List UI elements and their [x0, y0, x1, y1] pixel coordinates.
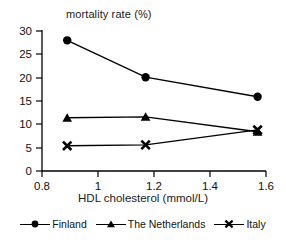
series-line — [67, 130, 257, 146]
y-tick-label-20: 20 — [19, 72, 32, 84]
series-italy — [63, 126, 262, 150]
y-tick-label-0: 0 — [26, 165, 32, 177]
legend-item-the-netherlands[interactable]: The Netherlands — [96, 218, 206, 230]
y-tick-label-30: 30 — [19, 25, 32, 37]
legend-item-italy[interactable]: Italy — [214, 218, 265, 230]
chart-legend: Finland The Netherlands Italy — [0, 218, 286, 230]
data-point[interactable] — [141, 73, 149, 81]
x-tick-label-1: 1 — [95, 180, 101, 192]
series-line — [67, 40, 257, 96]
data-point[interactable] — [253, 93, 261, 101]
chart-plot-area: 30 25 20 15 10 5 0 0.8 1 1.2 1.4 1.6 — [0, 0, 286, 243]
x-tick-label-0.8: 0.8 — [34, 180, 50, 192]
x-axis-ticks — [42, 171, 266, 177]
series-finland — [63, 36, 262, 101]
circle-marker-icon — [20, 218, 50, 230]
x-marker-icon — [214, 218, 244, 230]
x-tick-label-1.2: 1.2 — [146, 180, 162, 192]
legend-label-italy: Italy — [246, 218, 265, 230]
legend-item-finland[interactable]: Finland — [20, 218, 86, 230]
y-axis-ticks — [36, 31, 42, 171]
mortality-rate-chart: mortality rate (%) 30 25 20 15 10 5 0 — [0, 0, 286, 243]
y-tick-label-10: 10 — [19, 118, 32, 130]
triangle-marker-icon — [96, 218, 126, 230]
data-point[interactable] — [63, 36, 71, 44]
legend-label-finland: Finland — [52, 218, 86, 230]
series-the-netherlands — [62, 112, 262, 135]
x-axis-title: HDL cholesterol (mmol/L) — [0, 192, 286, 204]
data-series-layer — [62, 36, 262, 150]
y-tick-label-25: 25 — [19, 48, 32, 60]
x-tick-label-1.6: 1.6 — [258, 180, 274, 192]
y-tick-label-15: 15 — [19, 95, 32, 107]
x-tick-label-1.4: 1.4 — [202, 180, 219, 192]
series-line — [67, 117, 257, 132]
legend-label-the-netherlands: The Netherlands — [128, 218, 206, 230]
y-tick-label-5: 5 — [26, 142, 32, 154]
